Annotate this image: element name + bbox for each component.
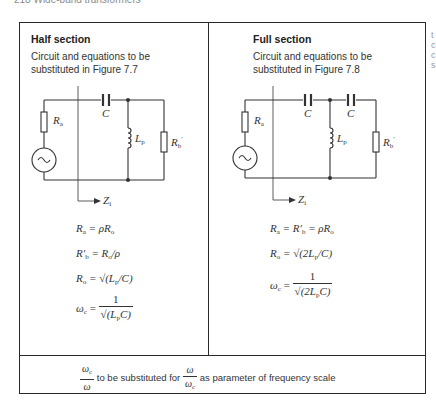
full-section-circuit xyxy=(233,86,379,200)
resistor-rb xyxy=(161,132,167,152)
inductor-lp xyxy=(128,128,131,148)
label-rb: Rb′ xyxy=(171,135,183,150)
label-rb: Rb′ xyxy=(383,135,395,150)
label-c1: C xyxy=(304,107,311,119)
equation-omega-c: ωc = 1√(LpC) xyxy=(76,293,133,325)
label-c2: C xyxy=(347,107,354,119)
equation-rb: R′b = Ro/ρ xyxy=(76,247,120,261)
footer-note: ωcω to be substituted for ωωc as paramet… xyxy=(80,362,335,394)
label-ra: Ra xyxy=(254,114,264,128)
label-zi: Zi xyxy=(298,193,306,207)
label-zi: Zi xyxy=(103,194,111,208)
equation-ro: Ro = √(2Lp/C) xyxy=(270,247,332,261)
label-ra: Ra xyxy=(53,114,63,128)
equation-ra-rb: Ra = R′b = ρRo xyxy=(270,222,334,236)
equation-ra: Ra = ρRo xyxy=(76,222,114,236)
fraction-omega-c-over-omega: ωcω xyxy=(80,362,94,394)
label-lp: Lp xyxy=(135,132,145,146)
equation-ro: Ro = √(Lp/C) xyxy=(76,272,133,286)
resistor-ra xyxy=(41,112,47,132)
half-section-circuit xyxy=(32,86,167,201)
equation-omega-c: ωc = 1√(2LpC) xyxy=(270,270,332,302)
label-lp: Lp xyxy=(337,132,347,146)
label-c: C xyxy=(102,107,109,119)
fraction-omega-over-omega-c: ωωc xyxy=(183,363,197,394)
